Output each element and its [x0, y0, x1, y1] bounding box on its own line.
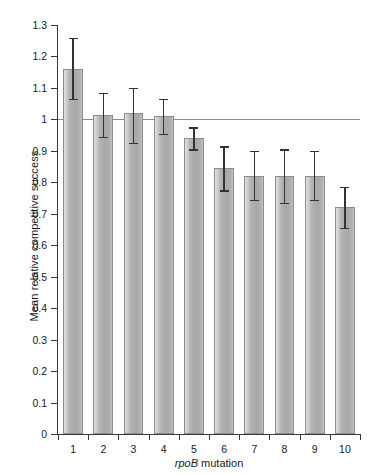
error-bar-stem [254, 151, 255, 200]
y-tick [51, 88, 58, 89]
y-tick-label: 0.6 [7, 239, 47, 251]
y-tick-label: 0.4 [7, 302, 47, 314]
x-axis-title-gene: rpoB [175, 457, 198, 469]
y-tick-label: 1.1 [7, 82, 47, 94]
y-tick [51, 182, 58, 183]
error-bar-cap-lower [189, 149, 198, 150]
x-tick-label: 3 [119, 443, 149, 455]
y-tick [51, 214, 58, 215]
y-tick [51, 308, 58, 309]
error-bar-cap-upper [220, 146, 229, 147]
y-tick [51, 371, 58, 372]
error-bar-cap-lower [129, 143, 138, 144]
error-bar-cap-upper [159, 99, 168, 100]
bar [93, 115, 113, 434]
error-bar-cap-lower [220, 190, 229, 191]
x-tick [179, 434, 180, 440]
bar [335, 207, 355, 434]
x-tick [360, 434, 361, 440]
y-tick-label: 1 [7, 113, 47, 125]
x-axis-title-rest: mutation [198, 457, 243, 469]
bar [275, 176, 295, 434]
error-bar-cap-upper [189, 127, 198, 128]
y-tick [51, 25, 58, 26]
x-tick [330, 434, 331, 440]
error-bar-cap-lower [310, 200, 319, 201]
error-bar-stem [133, 88, 134, 143]
bar [305, 176, 325, 434]
error-bar-cap-upper [280, 149, 289, 150]
x-tick [239, 434, 240, 440]
error-bar-cap-upper [69, 38, 78, 39]
x-tick-label: 4 [149, 443, 179, 455]
bar [214, 168, 234, 434]
x-tick [300, 434, 301, 440]
x-tick [118, 434, 119, 440]
y-tick [51, 56, 58, 57]
bar-chart-figure: Mean relative competitive success 00.10.… [0, 0, 367, 474]
error-bar-stem [284, 149, 285, 202]
error-bar-stem [72, 38, 73, 99]
error-bar-cap-lower [250, 200, 259, 201]
x-axis-title: rpoB mutation [58, 457, 360, 469]
x-tick [149, 434, 150, 440]
x-tick-label: 7 [239, 443, 269, 455]
error-bar-stem [223, 146, 224, 190]
y-tick-label: 1.2 [7, 50, 47, 62]
bar [63, 69, 83, 434]
y-tick-label: 0.9 [7, 145, 47, 157]
error-bar-cap-upper [250, 151, 259, 152]
error-bar-cap-lower [159, 134, 168, 135]
bar [154, 116, 174, 434]
error-bar-cap-upper [340, 187, 349, 188]
error-bar-cap-lower [280, 203, 289, 204]
y-tick [51, 403, 58, 404]
error-bar-cap-lower [340, 228, 349, 229]
x-tick-label: 6 [209, 443, 239, 455]
bar [124, 113, 144, 434]
bar [244, 176, 264, 434]
x-tick-label: 1 [58, 443, 88, 455]
y-tick [51, 277, 58, 278]
y-tick-label: 0.7 [7, 208, 47, 220]
y-tick [51, 434, 58, 435]
error-bar-stem [103, 93, 104, 137]
x-tick [209, 434, 210, 440]
error-bar-stem [163, 99, 164, 134]
x-tick-label: 9 [300, 443, 330, 455]
y-tick-label: 0.5 [7, 271, 47, 283]
y-tick-label: 0.2 [7, 365, 47, 377]
error-bar-cap-upper [99, 93, 108, 94]
error-bar-cap-upper [310, 151, 319, 152]
y-tick [51, 245, 58, 246]
error-bar-cap-lower [99, 137, 108, 138]
error-bar-stem [314, 151, 315, 200]
y-tick [51, 151, 58, 152]
y-axis-line [57, 25, 58, 435]
x-tick [269, 434, 270, 440]
x-tick [88, 434, 89, 440]
y-tick-label: 0.1 [7, 397, 47, 409]
error-bar-stem [344, 187, 345, 228]
y-tick-label: 0 [7, 428, 47, 440]
error-bar-cap-lower [69, 99, 78, 100]
y-tick-label: 0.8 [7, 176, 47, 188]
bar [184, 138, 204, 434]
y-tick-label: 1.3 [7, 19, 47, 31]
error-bar-stem [193, 127, 194, 149]
x-tick-label: 5 [179, 443, 209, 455]
error-bar-cap-upper [129, 88, 138, 89]
y-tick [51, 340, 58, 341]
x-tick [58, 434, 59, 440]
y-tick-label: 0.3 [7, 334, 47, 346]
x-tick-label: 2 [88, 443, 118, 455]
x-tick-label: 10 [330, 443, 360, 455]
x-tick-label: 8 [270, 443, 300, 455]
y-tick [51, 119, 58, 120]
